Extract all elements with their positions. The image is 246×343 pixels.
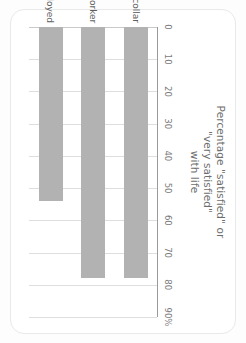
rotated-figure-stage: Percentage "satisfied" or "very satisfie… bbox=[15, 13, 231, 331]
tick-label-30: 30 bbox=[163, 118, 173, 129]
page-root: Percentage "satisfied" or "very satisfie… bbox=[0, 0, 246, 343]
bar-white-collar[interactable] bbox=[124, 27, 148, 278]
value-axis-tick-labels: 0102030405060708090% bbox=[159, 27, 173, 317]
tick-label-10: 10 bbox=[163, 53, 173, 64]
tick-label-90: 90% bbox=[163, 307, 173, 326]
chart-title: Percentage "satisfied" or "very satisfie… bbox=[188, 13, 227, 331]
bar-track bbox=[72, 27, 115, 317]
tick-label-60: 60 bbox=[163, 214, 173, 225]
value-axis-line bbox=[157, 27, 158, 317]
tick-label-0: 0 bbox=[163, 24, 173, 29]
tick-label-50: 50 bbox=[163, 182, 173, 193]
plot-area: White collarManual workerUnemployed bbox=[29, 27, 157, 317]
tick-label-40: 40 bbox=[163, 150, 173, 161]
tick-label-70: 70 bbox=[163, 247, 173, 258]
bar-track bbox=[114, 27, 157, 317]
tick-label-80: 80 bbox=[163, 279, 173, 290]
tick-label-20: 20 bbox=[163, 86, 173, 97]
bar-track bbox=[29, 27, 72, 317]
bar-chart-figure: Percentage "satisfied" or "very satisfie… bbox=[15, 13, 231, 331]
bar-manual-worker[interactable] bbox=[81, 27, 105, 278]
bar-unemployed[interactable] bbox=[39, 27, 63, 201]
chart-card: Percentage "satisfied" or "very satisfie… bbox=[10, 9, 236, 334]
